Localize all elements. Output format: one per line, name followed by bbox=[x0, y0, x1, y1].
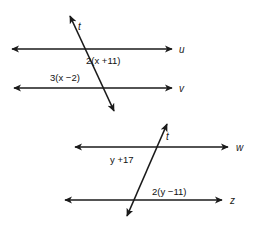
angle-expression-2x11: 2(x +11) bbox=[86, 55, 120, 66]
transversal-label-t-top: t bbox=[78, 21, 82, 32]
top-diagram-group: t u v 2(x +11) 3(x −2) bbox=[12, 16, 185, 111]
line-label-w: w bbox=[236, 142, 244, 153]
transversal-label-t-bottom: t bbox=[166, 131, 170, 142]
geometry-figure: t u v 2(x +11) 3(x −2) t w z bbox=[0, 0, 267, 229]
angle-expression-3x2: 3(x −2) bbox=[50, 72, 80, 83]
transversal-t-bottom bbox=[127, 124, 167, 216]
line-label-v: v bbox=[179, 83, 185, 94]
angle-expression-2y11: 2(y −11) bbox=[152, 186, 186, 197]
angle-expression-y17: y +17 bbox=[110, 154, 134, 165]
line-label-z: z bbox=[229, 195, 235, 206]
bottom-diagram-group: t w z y +17 2(y −11) bbox=[65, 124, 244, 216]
geometry-diagram-svg: t u v 2(x +11) 3(x −2) t w z bbox=[0, 0, 267, 229]
line-label-u: u bbox=[179, 44, 185, 55]
